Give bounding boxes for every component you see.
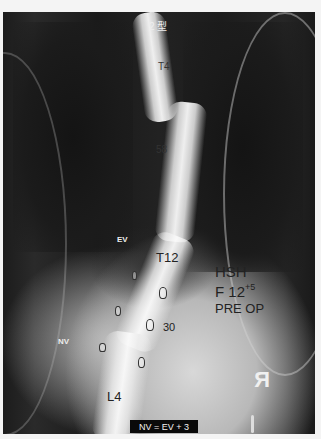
- level-label-t4: T4: [158, 62, 170, 72]
- patient-initials: HSH: [215, 264, 247, 279]
- pedicle-marker: [115, 306, 121, 316]
- formula-label: NV = EV + 3: [130, 420, 198, 433]
- nv-label: NV: [58, 338, 69, 346]
- level-label-l4: L4: [107, 390, 121, 403]
- ev-label: EV: [117, 236, 128, 244]
- level-label-t12: T12: [156, 251, 178, 264]
- curve-angle-upper: 58: [156, 145, 167, 155]
- pedicle-marker: [132, 271, 137, 280]
- age-months: +5: [245, 282, 255, 292]
- pedicle-marker: [146, 319, 154, 331]
- pedicle-marker: [138, 357, 145, 368]
- patient-sex-age-text: F 12: [215, 283, 245, 300]
- status-label: PRE OP: [215, 302, 264, 315]
- pedicle-marker: [159, 287, 167, 299]
- type-label: 2 型: [149, 22, 167, 32]
- side-marker: R: [254, 367, 270, 393]
- clip-artifact: [251, 415, 254, 433]
- curve-angle-lower: 30: [163, 322, 175, 333]
- pedicle-marker: [99, 343, 106, 352]
- patient-sex-age: F 12+5: [215, 283, 255, 299]
